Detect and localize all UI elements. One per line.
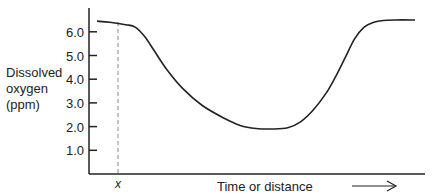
- y-tick-label: 6.0: [66, 25, 84, 40]
- y-tick-label: 1.0: [66, 143, 84, 158]
- y-axis-label-line-1: Dissolved: [6, 65, 62, 80]
- y-axis-label-line-3: (ppm): [6, 97, 40, 112]
- y-tick-label: 2.0: [66, 120, 84, 135]
- y-ticks: 1.02.03.04.05.06.0: [66, 25, 97, 159]
- dissolved-oxygen-chart: Dissolved oxygen (ppm) 1.02.03.04.05.06.…: [0, 0, 434, 196]
- y-tick-label: 3.0: [66, 96, 84, 111]
- series-line-dissolved-oxygen: [97, 20, 415, 129]
- long-right-arrow-icon: [352, 181, 396, 191]
- x-marker-label: x: [114, 177, 122, 191]
- x-axis-label: Time or distance: [217, 179, 313, 194]
- y-tick-label: 5.0: [66, 49, 84, 64]
- y-axis-label-line-2: oxygen: [6, 81, 48, 96]
- y-tick-label: 4.0: [66, 72, 84, 87]
- y-axis-label: Dissolved oxygen (ppm): [6, 65, 62, 112]
